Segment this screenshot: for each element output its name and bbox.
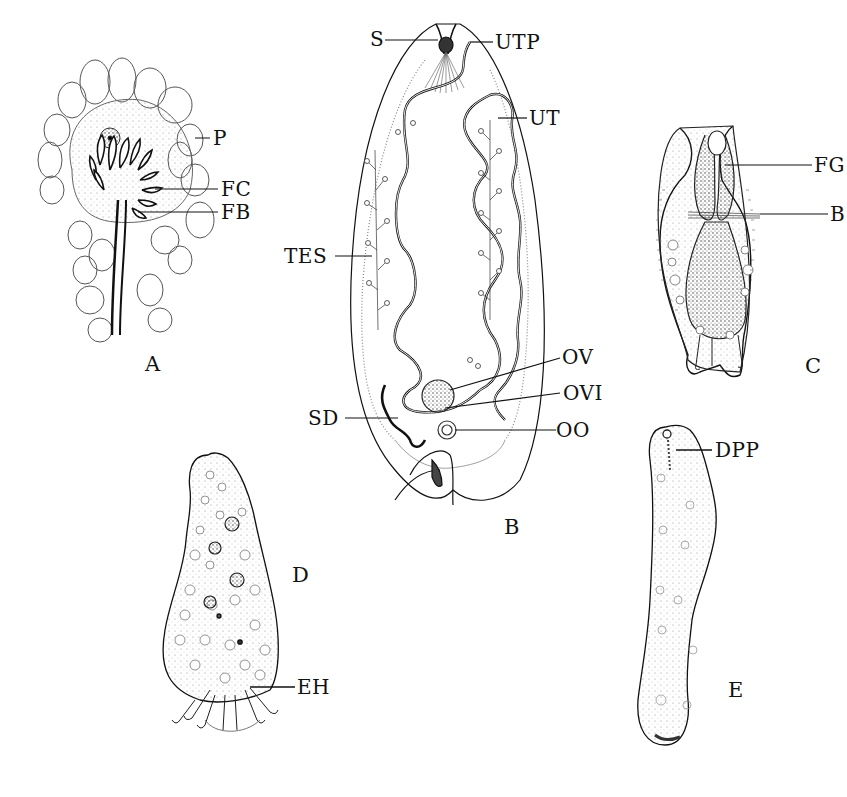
panel-d-drawing bbox=[163, 453, 295, 731]
label-fg: FG bbox=[814, 155, 845, 175]
label-fb: FB bbox=[221, 202, 251, 222]
label-ut: UT bbox=[529, 108, 560, 128]
label-b: B bbox=[830, 204, 845, 224]
label-p: P bbox=[213, 128, 227, 148]
label-utp: UTP bbox=[495, 32, 540, 52]
label-sd: SD bbox=[308, 408, 339, 428]
label-oo: OO bbox=[556, 420, 590, 440]
figure-drawings bbox=[0, 0, 847, 797]
label-ov: OV bbox=[562, 347, 594, 367]
panel-letter-c: C bbox=[805, 356, 821, 377]
panel-letter-a: A bbox=[145, 354, 160, 375]
panel-letter-d: D bbox=[292, 565, 309, 586]
label-fc: FC bbox=[221, 179, 251, 199]
label-tes: TES bbox=[284, 246, 327, 266]
panel-e-drawing bbox=[638, 425, 716, 745]
label-dpp: DPP bbox=[715, 440, 759, 460]
scientific-figure: P FC FB A S UTP UT TES OV OVI SD OO B FG… bbox=[0, 0, 847, 797]
panel-c-drawing bbox=[656, 126, 828, 377]
label-s: S bbox=[370, 29, 384, 49]
panel-b-drawing bbox=[335, 24, 560, 505]
label-ovi: OVI bbox=[563, 383, 603, 403]
panel-letter-b: B bbox=[504, 517, 519, 538]
panel-a-drawing bbox=[38, 58, 218, 342]
panel-letter-e: E bbox=[728, 680, 743, 701]
label-eh: EH bbox=[297, 677, 330, 697]
